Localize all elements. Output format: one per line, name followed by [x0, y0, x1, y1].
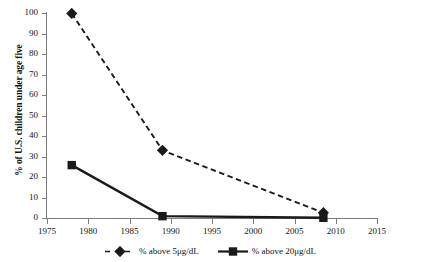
x-tick-mark: [336, 219, 337, 224]
y-tick-label-text: 50: [16, 111, 38, 120]
series-line: [72, 13, 324, 212]
x-tick-label: 2010: [316, 226, 356, 236]
data-point-diamond-marker: [157, 145, 168, 156]
y-tick-label: 80: [14, 49, 38, 58]
y-tick-label: 10: [14, 193, 38, 202]
x-tick-label: 1975: [27, 226, 67, 236]
y-tick-mark: [42, 13, 47, 14]
y-tick-label: 20: [14, 172, 38, 181]
y-tick-mark: [42, 95, 47, 96]
x-tick-mark: [295, 219, 296, 224]
legend-item-2[interactable]: % above 20μg/dL: [218, 246, 316, 257]
y-tick-mark: [42, 54, 47, 55]
y-tick-label-text: 100: [16, 8, 38, 17]
chart-legend: % above 5μg/dL% above 20μg/dL: [0, 243, 421, 259]
y-tick-label-text: 60: [16, 90, 38, 99]
x-tick-label: 1990: [151, 226, 191, 236]
y-tick-label: 70: [14, 70, 38, 79]
x-tick-label: 1995: [192, 226, 232, 236]
y-tick-label-text: 80: [16, 49, 38, 58]
y-tick-label-text: 70: [16, 70, 38, 79]
y-tick-mark: [42, 198, 47, 199]
y-tick-label: 50: [14, 111, 38, 120]
x-tick-mark: [88, 219, 89, 224]
x-tick-mark: [171, 219, 172, 224]
x-tick-mark: [47, 219, 48, 224]
series-plot-layer: [0, 0, 421, 262]
x-tick-mark: [212, 219, 213, 224]
y-tick-mark: [42, 177, 47, 178]
y-tick-label: 100: [14, 8, 38, 17]
y-tick-label-text: 40: [16, 131, 38, 140]
data-point-diamond-marker: [318, 207, 329, 218]
legend-item-label: % above 5μg/dL: [139, 246, 199, 256]
x-tick-label: 1980: [68, 226, 108, 236]
x-tick-mark: [130, 219, 131, 224]
data-point-square-marker: [229, 247, 237, 255]
data-point-square-marker: [158, 212, 166, 220]
y-tick-label: 60: [14, 90, 38, 99]
legend-item-1[interactable]: % above 5μg/dL: [105, 246, 199, 257]
legend-item-label: % above 20μg/dL: [252, 246, 316, 256]
y-tick-label: 30: [14, 152, 38, 161]
data-point-diamond-marker: [114, 246, 125, 257]
lead-exposure-line-chart: % of U.S. children under age five 010203…: [0, 0, 421, 262]
y-tick-label-text: 20: [16, 172, 38, 181]
x-tick-label: 2000: [233, 226, 273, 236]
y-tick-label-text: 90: [16, 29, 38, 38]
series-1: [66, 8, 329, 218]
y-tick-label-text: 10: [16, 193, 38, 202]
legend-square-line-icon: [218, 246, 248, 257]
x-tick-mark: [377, 219, 378, 224]
y-tick-mark: [42, 157, 47, 158]
x-tick-label: 1985: [110, 226, 150, 236]
y-tick-label: 40: [14, 131, 38, 140]
y-tick-label-text: 30: [16, 152, 38, 161]
data-point-diamond-marker: [66, 8, 77, 19]
series-2: [68, 161, 328, 222]
x-tick-label: 2015: [357, 226, 397, 236]
series-line: [72, 165, 324, 218]
y-tick-mark: [42, 116, 47, 117]
x-tick-label: 2005: [275, 226, 315, 236]
y-tick-label: 90: [14, 29, 38, 38]
y-tick-mark: [42, 75, 47, 76]
legend-diamond-line-icon: [105, 246, 135, 257]
x-tick-mark: [253, 219, 254, 224]
y-tick-mark: [42, 34, 47, 35]
data-point-square-marker: [68, 161, 76, 169]
y-tick-mark: [42, 136, 47, 137]
y-tick-label: 0: [14, 213, 38, 222]
y-tick-label-text: 0: [16, 213, 38, 222]
